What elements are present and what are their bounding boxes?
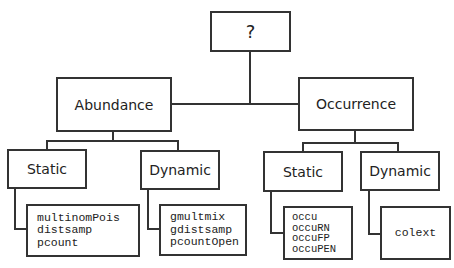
occurrence-label: Occurrence xyxy=(316,96,396,112)
method-item: distsamp xyxy=(37,224,120,237)
connector-root-vertical xyxy=(249,51,251,105)
abundance-node: Abundance xyxy=(56,77,172,132)
abundance-dynamic-methods: gmultmix gdistsamp pcountOpen xyxy=(159,204,247,256)
method-item: pcountOpen xyxy=(170,236,239,249)
connector-abundance-dynamic-methods-v xyxy=(147,189,149,230)
occurrence-dynamic-node: Dynamic xyxy=(360,151,440,191)
abundance-dynamic-node: Dynamic xyxy=(140,150,220,190)
occurrence-dynamic-label: Dynamic xyxy=(369,163,431,179)
method-item: gmultmix xyxy=(170,211,239,224)
connector-occurrence-static-methods-h xyxy=(270,232,284,234)
abundance-dynamic-label: Dynamic xyxy=(149,162,211,178)
occurrence-dynamic-methods: colext xyxy=(380,206,451,260)
abundance-static-node: Static xyxy=(7,149,87,189)
method-item: colext xyxy=(395,227,436,240)
occurrence-node: Occurrence xyxy=(298,77,414,131)
model-hierarchy-diagram: ? Abundance Occurrence Static Dynamic St… xyxy=(0,0,454,268)
root-label: ? xyxy=(246,21,256,42)
occurrence-static-methods: occu occuRN occuFP occuPEN xyxy=(283,206,353,260)
connector-abundance-static-methods-v xyxy=(14,188,16,230)
method-item: occuFP xyxy=(292,233,336,244)
method-item: occuPEN xyxy=(292,244,336,255)
occurrence-static-node: Static xyxy=(263,151,343,192)
connector-level2-horizontal xyxy=(171,103,299,105)
connector-abundance-horizontal xyxy=(46,140,179,142)
abundance-label: Abundance xyxy=(75,97,154,113)
connector-occurrence-static-methods-v xyxy=(270,191,272,234)
method-item: pcount xyxy=(37,237,120,250)
abundance-static-methods: multinomPois distsamp pcount xyxy=(26,204,140,257)
connector-occurrence-horizontal xyxy=(302,142,399,144)
root-node: ? xyxy=(210,11,291,52)
abundance-static-label: Static xyxy=(27,161,67,177)
method-item: occu xyxy=(292,212,336,223)
occurrence-static-label: Static xyxy=(283,164,323,180)
connector-occurrence-dynamic-methods-v xyxy=(368,190,370,235)
